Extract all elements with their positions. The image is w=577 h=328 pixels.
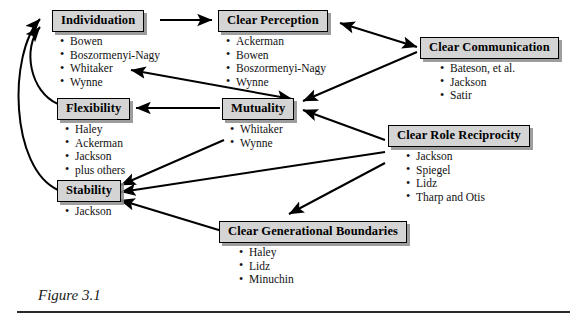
bullet-icon: • <box>65 136 69 150</box>
node-clear-communication-title: Clear Communication <box>429 40 550 55</box>
list-item: •Lidz <box>416 177 530 191</box>
list-item: •Minuchin <box>249 273 407 287</box>
list-item: •Whitaker <box>70 62 160 76</box>
bullet-icon: • <box>65 205 69 219</box>
list-item: •Satir <box>450 89 559 103</box>
figure-caption: Figure 3.1 <box>38 286 101 304</box>
list-item: •Wynne <box>70 76 160 90</box>
list-item: •Tharp and Otis <box>416 191 530 205</box>
node-stability-list: •Jackson <box>57 205 121 219</box>
node-individuation: Individuation •Bowen •Boszormenyi-Nagy •… <box>52 10 160 89</box>
bullet-icon: • <box>226 48 230 62</box>
list-item: •Bowen <box>70 35 160 49</box>
arrow-clear-role-reciprocity-to-mutuality <box>303 110 385 140</box>
list-item: •Boszormenyi-Nagy <box>236 62 328 76</box>
node-flexibility-title: Flexibility <box>66 101 121 116</box>
node-flexibility: Flexibility •Haley •Ackerman •Jackson •p… <box>57 98 130 177</box>
bullet-icon: • <box>239 259 243 273</box>
bullet-icon: • <box>65 163 69 177</box>
bullet-icon: • <box>406 150 410 164</box>
list-item: •Boszormenyi-Nagy <box>70 49 160 63</box>
node-clear-communication: Clear Communication •Bateson, et al. •Ja… <box>420 37 559 103</box>
bullet-icon: • <box>60 48 64 62</box>
bullet-icon: • <box>60 35 64 49</box>
bullet-icon: • <box>230 136 234 150</box>
arrow-clear-perception-clear-communication <box>340 23 417 47</box>
list-item: •Lidz <box>249 260 407 274</box>
node-mutuality-list: •Whitaker •Wynne <box>222 123 294 150</box>
bullet-icon: • <box>230 123 234 137</box>
node-stability-box[interactable]: Stability <box>57 180 121 202</box>
list-item: •Wynne <box>236 76 328 90</box>
list-item: •plus others <box>75 164 130 178</box>
node-clear-perception: Clear Perception •Ackerman •Bowen •Boszo… <box>218 10 328 89</box>
node-mutuality-box[interactable]: Mutuality <box>222 98 294 120</box>
node-flexibility-list: •Haley •Ackerman •Jackson •plus others <box>57 123 130 177</box>
node-clear-communication-box[interactable]: Clear Communication <box>420 37 559 59</box>
bullet-icon: • <box>406 163 410 177</box>
node-clear-perception-title: Clear Perception <box>227 13 319 28</box>
bullet-icon: • <box>406 177 410 191</box>
node-mutuality-title: Mutuality <box>231 101 285 116</box>
node-individuation-list: •Bowen •Boszormenyi-Nagy •Whitaker •Wynn… <box>52 35 160 89</box>
node-clear-role-reciprocity-list: •Jackson •Spiegel •Lidz •Tharp and Otis <box>388 150 530 204</box>
node-clear-perception-box[interactable]: Clear Perception <box>218 10 328 32</box>
node-clear-generational-boundaries-list: •Haley •Lidz •Minuchin <box>219 246 407 287</box>
bullet-icon: • <box>239 246 243 260</box>
list-item: •Haley <box>75 123 130 137</box>
node-flexibility-box[interactable]: Flexibility <box>57 98 130 120</box>
arrow-clear-generational-boundaries-to-stability <box>120 200 222 231</box>
node-mutuality: Mutuality •Whitaker •Wynne <box>222 98 294 150</box>
list-item: •Haley <box>249 246 407 260</box>
figure-diagram: Individuation •Bowen •Boszormenyi-Nagy •… <box>0 0 577 328</box>
list-item: •Spiegel <box>416 164 530 178</box>
bullet-icon: • <box>226 75 230 89</box>
bullet-icon: • <box>65 150 69 164</box>
bullet-icon: • <box>60 75 64 89</box>
node-stability-title: Stability <box>66 183 112 198</box>
bullet-icon: • <box>406 190 410 204</box>
bullet-icon: • <box>60 62 64 76</box>
node-individuation-box[interactable]: Individuation <box>52 10 144 32</box>
node-clear-perception-list: •Ackerman •Bowen •Boszormenyi-Nagy •Wynn… <box>218 35 328 89</box>
list-item: •Bowen <box>236 49 328 63</box>
node-clear-communication-list: •Bateson, et al. •Jackson •Satir <box>420 62 559 103</box>
bullet-icon: • <box>65 123 69 137</box>
bullet-icon: • <box>226 35 230 49</box>
node-clear-generational-boundaries: Clear Generational Boundaries •Haley •Li… <box>219 221 407 287</box>
node-clear-generational-boundaries-title: Clear Generational Boundaries <box>228 224 398 239</box>
list-item: •Ackerman <box>75 137 130 151</box>
list-item: •Jackson <box>450 76 559 90</box>
list-item: •Wynne <box>240 137 294 151</box>
node-clear-role-reciprocity: Clear Role Reciprocity •Jackson •Spiegel… <box>388 125 530 204</box>
list-item: •Jackson <box>416 150 530 164</box>
bullet-icon: • <box>440 62 444 76</box>
bullet-icon: • <box>239 273 243 287</box>
caption-divider <box>17 311 570 313</box>
node-clear-role-reciprocity-box[interactable]: Clear Role Reciprocity <box>388 125 530 147</box>
list-item: •Whitaker <box>240 123 294 137</box>
node-clear-role-reciprocity-title: Clear Role Reciprocity <box>397 128 521 143</box>
arrow-clear-role-reciprocity-to-clear-generational-boundaries <box>289 163 385 214</box>
list-item: •Ackerman <box>236 35 328 49</box>
bullet-icon: • <box>226 62 230 76</box>
arrow-clear-role-reciprocity-to-stability <box>121 152 385 192</box>
list-item: •Jackson <box>75 150 130 164</box>
node-clear-generational-boundaries-box[interactable]: Clear Generational Boundaries <box>219 221 407 243</box>
node-individuation-title: Individuation <box>61 13 135 28</box>
bullet-icon: • <box>440 89 444 103</box>
node-stability: Stability •Jackson <box>57 180 121 219</box>
list-item: •Jackson <box>75 205 121 219</box>
bullet-icon: • <box>440 75 444 89</box>
list-item: •Bateson, et al. <box>450 62 559 76</box>
